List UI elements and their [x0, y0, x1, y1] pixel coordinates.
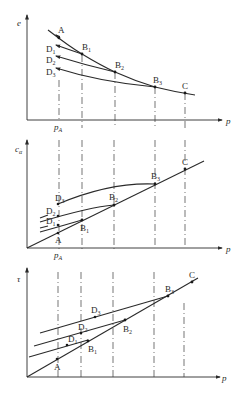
diagram-canvas: e p pA A B1 B2 B3 C D1 D2 D3 cα p [0, 0, 244, 394]
panel-stress-ratio: cα p pA A B1 B2 B3 C D1 D2 D3 [15, 140, 231, 261]
point-b3-label: B3 [165, 284, 174, 295]
x-axis-label: p [225, 244, 231, 254]
point-b2-label: B2 [123, 324, 132, 335]
point-d2-label: D2 [78, 322, 88, 333]
point-d3-label: D3 [55, 193, 65, 204]
unload-curve-d2 [56, 56, 115, 72]
y-axis-label: e [17, 18, 21, 28]
y-axis-label: cα [15, 144, 23, 155]
point-b1-label: B1 [82, 42, 91, 53]
pa-tick-label: pA [53, 122, 63, 133]
point-d3-label: D3 [91, 305, 101, 316]
unload-curve-d3 [58, 184, 155, 204]
point-d2-label: D2 [46, 55, 56, 66]
unload-curve-d1 [56, 45, 82, 54]
point-d3-label: D3 [46, 67, 56, 78]
point-a-label: A [58, 25, 65, 35]
tick-d1 [40, 226, 48, 228]
y-axis-label: τ [17, 274, 21, 284]
point-a-label: A [54, 362, 61, 372]
point-c-label: C [189, 270, 195, 280]
unload-curve-d3 [56, 68, 155, 87]
point-b1-label: B1 [88, 344, 97, 355]
panel-shear-strength: τ p A B1 B2 B3 C D1 D2 D3 [17, 268, 227, 383]
panel-void-ratio: e p pA A B1 B2 B3 C D1 D2 D3 [17, 15, 231, 133]
pa-tick-label: pA [53, 250, 63, 261]
point-b3-label: B3 [153, 75, 162, 86]
point-c-label: C [182, 157, 188, 167]
point-d2-label: D2 [46, 206, 56, 217]
point-b2-label: B2 [115, 60, 124, 71]
x-axis-label: p [221, 373, 227, 383]
normal-line [27, 161, 204, 248]
point-b1-label: B1 [80, 223, 89, 234]
point-d1-label: D1 [46, 44, 56, 55]
unload-line-d3 [40, 296, 168, 333]
point-b3-label: B3 [151, 171, 160, 182]
point-b2-label: B2 [109, 192, 118, 203]
point-c-label: C [182, 81, 188, 91]
virgin-compression-curve [48, 30, 195, 95]
unload-line-d1 [29, 340, 88, 357]
point-d1-label: D1 [68, 334, 78, 345]
figure: e p pA A B1 B2 B3 C D1 D2 D3 cα p [0, 0, 244, 394]
x-axis-label: p [225, 116, 231, 126]
point-a-label: A [55, 235, 62, 245]
